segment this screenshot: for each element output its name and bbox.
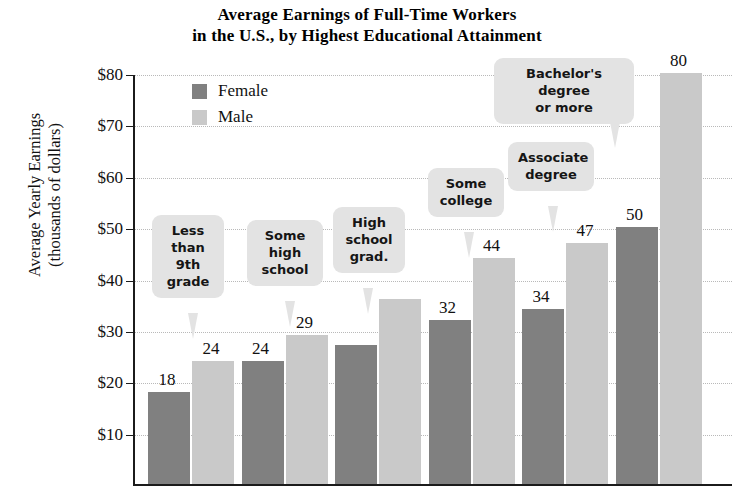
callout-tail bbox=[285, 301, 295, 327]
bar-value-label: 47 bbox=[577, 221, 594, 241]
category-callout: Some high school bbox=[247, 220, 323, 286]
bar-female bbox=[242, 361, 284, 484]
bar-female bbox=[616, 227, 658, 484]
bar-male bbox=[192, 361, 234, 484]
y-axis-title-line-2: (thousands of dollars) bbox=[45, 75, 65, 315]
y-tick-label: $40 bbox=[98, 271, 124, 291]
category-callout: Bachelor's degree or more bbox=[494, 58, 634, 124]
bar-male bbox=[660, 73, 702, 484]
y-tick-mark bbox=[126, 383, 135, 384]
y-tick-mark bbox=[126, 281, 135, 282]
y-tick-label: $80 bbox=[98, 65, 124, 85]
y-tick-label: $30 bbox=[98, 322, 124, 342]
chart-title: Average Earnings of Full-Time Workers in… bbox=[0, 4, 734, 46]
category-callout: Associate degree bbox=[508, 142, 594, 191]
bar-value-label: 50 bbox=[626, 205, 643, 225]
bar-value-label: 29 bbox=[296, 313, 313, 333]
bar-female bbox=[429, 320, 471, 484]
bar-value-label: 24 bbox=[252, 339, 269, 359]
y-tick-mark bbox=[126, 229, 135, 230]
callout-tail bbox=[548, 206, 558, 232]
callout-tail bbox=[188, 313, 198, 339]
y-tick-mark bbox=[126, 332, 135, 333]
category-callout: High school grad. bbox=[333, 207, 405, 273]
bar-value-label: 34 bbox=[533, 287, 550, 307]
y-axis-title-line-1: Average Yearly Earnings bbox=[25, 75, 45, 315]
bar-female bbox=[335, 345, 377, 484]
bar-value-label: 44 bbox=[483, 236, 500, 256]
bar-female bbox=[522, 309, 564, 484]
callout-tail bbox=[610, 122, 620, 148]
y-tick-label: $60 bbox=[98, 168, 124, 188]
bar-value-label: 18 bbox=[159, 370, 176, 390]
bar-male bbox=[473, 258, 515, 484]
y-tick-mark bbox=[126, 75, 135, 76]
legend: Female Male bbox=[192, 78, 268, 130]
bar-value-label: 24 bbox=[203, 339, 220, 359]
legend-item-female: Female bbox=[192, 78, 268, 104]
gridline bbox=[135, 75, 732, 76]
y-tick-label: $70 bbox=[98, 116, 124, 136]
bar-male bbox=[286, 335, 328, 484]
category-callout: Some college bbox=[428, 168, 504, 217]
y-tick-mark bbox=[126, 178, 135, 179]
y-tick-mark bbox=[126, 126, 135, 127]
bar-value-label: 80 bbox=[670, 51, 687, 71]
bar-male bbox=[379, 299, 421, 484]
chart-title-line-1: Average Earnings of Full-Time Workers bbox=[0, 4, 734, 25]
chart-title-line-2: in the U.S., by Highest Educational Atta… bbox=[0, 25, 734, 46]
y-tick-label: $50 bbox=[98, 219, 124, 239]
callout-tail bbox=[363, 288, 373, 314]
y-tick-mark bbox=[126, 435, 135, 436]
category-callout: Less than 9th grade bbox=[152, 215, 224, 298]
callout-tail bbox=[464, 232, 474, 258]
legend-item-male: Male bbox=[192, 104, 268, 130]
y-tick-label: $20 bbox=[98, 373, 124, 393]
bar-female bbox=[148, 392, 190, 484]
male-swatch-icon bbox=[192, 110, 207, 125]
y-axis-title: Average Yearly Earnings (thousands of do… bbox=[25, 75, 65, 315]
legend-label-female: Female bbox=[218, 81, 268, 101]
bar-value-label: 32 bbox=[439, 298, 456, 318]
legend-label-male: Male bbox=[218, 107, 253, 127]
y-tick-label: $10 bbox=[98, 425, 124, 445]
bar-male bbox=[566, 243, 608, 484]
female-swatch-icon bbox=[192, 84, 207, 99]
